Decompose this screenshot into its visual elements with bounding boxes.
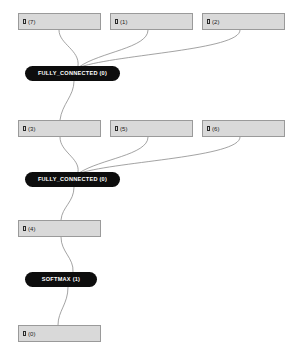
- tensor-node-label: (1): [120, 19, 128, 25]
- graph-edge: [79, 137, 148, 173]
- graph-edge: [60, 81, 74, 120]
- tensor-node-t6[interactable]: (6): [202, 120, 285, 137]
- graph-edge: [61, 237, 73, 272]
- tensor-node-t0[interactable]: (0): [18, 325, 101, 342]
- tensor-node-label: (7): [28, 19, 36, 25]
- tensor-node-label: (2): [212, 19, 220, 25]
- tensor-node-label: (4): [28, 226, 36, 232]
- op-node-label: FULLY_CONNECTED (0): [38, 177, 107, 183]
- op-node-label: SOFTMAX (1): [42, 277, 81, 283]
- graph-edge: [80, 30, 240, 67]
- tensor-node-label: (0): [28, 331, 36, 337]
- tensor-node-t5[interactable]: (5): [110, 120, 193, 137]
- tensor-node-t7[interactable]: (7): [18, 13, 101, 30]
- tensor-node-t2[interactable]: (2): [202, 13, 285, 30]
- graph-edge: [59, 30, 78, 66]
- tensor-node-label: (5): [120, 126, 128, 132]
- tensor-icon: [23, 226, 26, 231]
- tensor-node-label: (3): [28, 126, 36, 132]
- graph-edge: [80, 137, 240, 173]
- tensor-node-t3[interactable]: (3): [18, 120, 101, 137]
- tensor-node-label: (6): [212, 126, 220, 132]
- tensor-icon: [207, 126, 210, 131]
- tensor-node-t4[interactable]: (4): [18, 220, 101, 237]
- tensor-icon: [23, 19, 26, 24]
- graph-edge: [61, 187, 74, 220]
- graph-edge: [60, 137, 78, 172]
- tensor-icon: [23, 331, 26, 336]
- graph-edge: [79, 30, 148, 67]
- model-graph-canvas: (7)(1)(2)(3)(5)(6)(4)(0)FULLY_CONNECTED …: [0, 0, 294, 354]
- tensor-icon: [115, 126, 118, 131]
- tensor-icon: [23, 126, 26, 131]
- tensor-icon: [207, 19, 210, 24]
- tensor-icon: [115, 19, 118, 24]
- graph-edge: [58, 287, 68, 325]
- op-node-fc0a[interactable]: FULLY_CONNECTED (0): [25, 66, 120, 81]
- op-node-sm1[interactable]: SOFTMAX (1): [25, 272, 97, 287]
- tensor-node-t1[interactable]: (1): [110, 13, 193, 30]
- op-node-label: FULLY_CONNECTED (0): [38, 71, 107, 77]
- op-node-fc0b[interactable]: FULLY_CONNECTED (0): [25, 172, 120, 187]
